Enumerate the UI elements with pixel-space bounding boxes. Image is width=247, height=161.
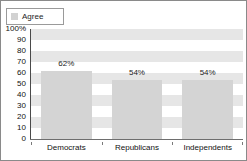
x-axis-tick-mark xyxy=(242,142,243,145)
y-axis-labels: 100%9080706050403020100 xyxy=(1,29,29,139)
bar-slot: 62% xyxy=(31,29,102,139)
bar-series-agree: 62%54%54% xyxy=(31,29,243,139)
bar[interactable] xyxy=(41,71,92,139)
x-axis-tick-mark xyxy=(31,142,32,145)
bar-slot: 54% xyxy=(102,29,173,139)
y-axis-tick-label: 30 xyxy=(17,102,26,110)
bar[interactable] xyxy=(182,80,233,139)
x-axis-category-label: Democrats xyxy=(31,144,102,152)
x-axis-tick-mark xyxy=(102,142,103,145)
x-axis-line xyxy=(30,139,243,140)
y-axis-tick-label: 50 xyxy=(17,80,26,88)
y-axis-tick-label: 70 xyxy=(17,58,26,66)
x-axis-tick-mark xyxy=(172,142,173,145)
y-axis-tick-label: 80 xyxy=(17,47,26,55)
legend-label-agree: Agree xyxy=(22,13,43,21)
x-axis-labels: DemocratsRepublicansIndependents xyxy=(31,142,243,158)
bar[interactable] xyxy=(112,80,163,139)
plot-wrapper: 100%9080706050403020100 62%54%54% Democr… xyxy=(1,29,246,160)
bar-chart: Agree 100%9080706050403020100 62%54%54% … xyxy=(0,0,247,161)
y-axis-tick-label: 40 xyxy=(17,91,26,99)
y-axis-tick-label: 90 xyxy=(17,36,26,44)
y-axis-tick-label: 100% xyxy=(6,25,26,33)
x-axis-category-label: Republicans xyxy=(102,144,173,152)
y-axis-tick-label: 20 xyxy=(17,113,26,121)
bar-value-label: 54% xyxy=(102,69,173,77)
chart-legend: Agree xyxy=(6,8,64,25)
y-axis-tick-label: 60 xyxy=(17,69,26,77)
plot-area: 62%54%54% xyxy=(31,29,243,139)
y-axis-tick-label: 0 xyxy=(22,135,26,143)
x-axis-category-label: Independents xyxy=(172,144,243,152)
bar-value-label: 62% xyxy=(31,60,102,68)
bar-value-label: 54% xyxy=(172,69,243,77)
bar-slot: 54% xyxy=(172,29,243,139)
y-axis-tick-label: 10 xyxy=(17,124,26,132)
legend-swatch-agree xyxy=(11,13,18,20)
